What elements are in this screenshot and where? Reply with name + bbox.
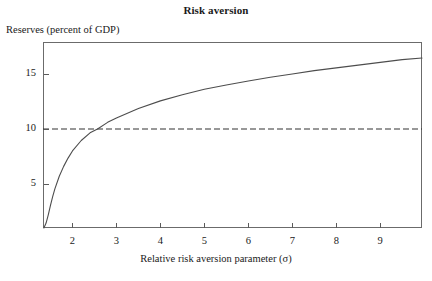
x-tick-label: 8 (326, 235, 346, 246)
x-tick-mark (336, 223, 337, 228)
x-axis-label: Relative risk aversion parameter (σ) (0, 253, 432, 264)
y-tick-label: 5 (6, 177, 36, 188)
y-tick-mark (44, 74, 49, 75)
x-tick-label: 9 (370, 235, 390, 246)
x-tick-label: 3 (106, 235, 126, 246)
x-tick-mark (72, 223, 73, 228)
x-tick-mark (204, 223, 205, 228)
x-tick-mark (292, 223, 293, 228)
y-axis-label: Reserves (percent of GDP) (6, 24, 119, 35)
x-tick-label: 6 (238, 235, 258, 246)
x-tick-label: 5 (194, 235, 214, 246)
x-tick-mark (380, 223, 381, 228)
x-tick-label: 2 (62, 235, 82, 246)
x-tick-mark (248, 223, 249, 228)
y-tick-mark (44, 129, 49, 130)
x-tick-mark (116, 223, 117, 228)
chart-title: Risk aversion (0, 4, 432, 16)
optimal-reserves-series (44, 58, 422, 228)
series-layer (43, 42, 422, 228)
y-tick-mark (44, 184, 49, 185)
chart-figure: Risk aversion Reserves (percent of GDP) … (0, 0, 432, 281)
y-tick-label: 15 (6, 67, 36, 78)
x-tick-label: 4 (150, 235, 170, 246)
x-tick-mark (160, 223, 161, 228)
x-tick-label: 7 (282, 235, 302, 246)
plot-area (43, 42, 422, 228)
y-tick-label: 10 (6, 122, 36, 133)
